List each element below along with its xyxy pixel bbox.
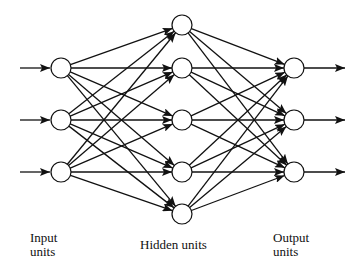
input-unit-node (51, 162, 71, 182)
input-label-line2: units (30, 245, 57, 259)
input-units-label: Input units (30, 231, 57, 259)
hidden-output-edge (188, 33, 288, 164)
hidden-unit-node (172, 204, 192, 224)
hidden-output-edge (191, 176, 284, 211)
hidden-output-edge (191, 29, 284, 65)
hidden-output-edge (190, 31, 287, 113)
input-hidden-edge (69, 126, 174, 208)
input-hidden-edge (69, 31, 174, 114)
input-hidden-edge (67, 76, 175, 207)
output-unit-node (284, 58, 304, 78)
input-unit-node (51, 110, 71, 130)
input-label-line1: Input (30, 231, 57, 245)
input-hidden-edge (70, 28, 172, 64)
hidden-units-label: Hidden units (140, 238, 207, 252)
output-units-label: Output units (273, 231, 309, 259)
output-unit-node (284, 110, 304, 130)
input-hidden-edge (67, 33, 175, 165)
hidden-unit-node (172, 58, 192, 78)
input-unit-node (51, 58, 71, 78)
hidden-output-edge (190, 126, 287, 207)
output-label-line1: Output (273, 231, 309, 245)
hidden-unit-node (172, 15, 192, 35)
input-hidden-edge (70, 175, 172, 210)
hidden-unit-node (172, 110, 192, 130)
hidden-label-line1: Hidden units (140, 238, 207, 252)
network-diagram (0, 0, 361, 266)
hidden-unit-node (172, 162, 192, 182)
hidden-output-edge (188, 76, 288, 206)
output-unit-node (284, 162, 304, 182)
output-label-line2: units (273, 245, 309, 259)
